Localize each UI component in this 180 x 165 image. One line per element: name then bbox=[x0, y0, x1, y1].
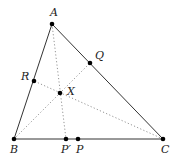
triangle-diagram: ABCP′PQRX bbox=[0, 0, 180, 165]
label-c: C bbox=[161, 143, 170, 156]
label-b: B bbox=[9, 143, 18, 156]
point-b bbox=[12, 137, 17, 142]
point-a bbox=[50, 22, 55, 27]
label-r: R bbox=[20, 70, 29, 83]
point-p bbox=[76, 137, 81, 142]
point-p-prime bbox=[64, 137, 69, 142]
point-r bbox=[32, 79, 37, 84]
cevian-c-r bbox=[34, 81, 163, 139]
label-p: P bbox=[75, 143, 84, 156]
cevian-a-pprime bbox=[52, 24, 66, 139]
cevian-lines bbox=[14, 24, 163, 139]
point-c bbox=[161, 137, 166, 142]
label-a: A bbox=[49, 6, 58, 19]
diagram-canvas: ABCP′PQRX bbox=[0, 0, 180, 165]
label-x: X bbox=[66, 85, 76, 98]
label-p-prime: P′ bbox=[60, 143, 71, 156]
point-q bbox=[88, 61, 93, 66]
point-x bbox=[58, 91, 63, 96]
side-ca bbox=[52, 24, 163, 139]
triangle-points bbox=[12, 22, 166, 142]
label-q: Q bbox=[95, 49, 104, 62]
triangle-sides bbox=[14, 24, 163, 139]
